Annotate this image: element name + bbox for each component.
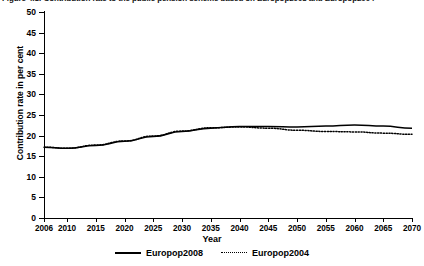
legend-label-europop2008: Europop2008 bbox=[146, 248, 203, 258]
series-line-europop2004 bbox=[44, 127, 412, 148]
figure-container: Figure 4.1: Contribution rate to the pub… bbox=[0, 0, 424, 266]
series-lines bbox=[0, 0, 424, 266]
chart-legend: Europop2008 Europop2004 bbox=[0, 248, 424, 258]
x-axis-title: Year bbox=[0, 234, 424, 244]
legend-swatch-solid-icon bbox=[115, 249, 141, 257]
legend-item-europop2008: Europop2008 bbox=[115, 248, 203, 258]
legend-label-europop2004: Europop2004 bbox=[252, 248, 309, 258]
y-axis-title: Contribution rate in per cent bbox=[15, 23, 25, 183]
chart-plot-area: 05101520253035404550 2006201020152020202… bbox=[0, 0, 424, 266]
legend-swatch-dotted-icon bbox=[221, 249, 247, 257]
legend-item-europop2004: Europop2004 bbox=[221, 248, 309, 258]
